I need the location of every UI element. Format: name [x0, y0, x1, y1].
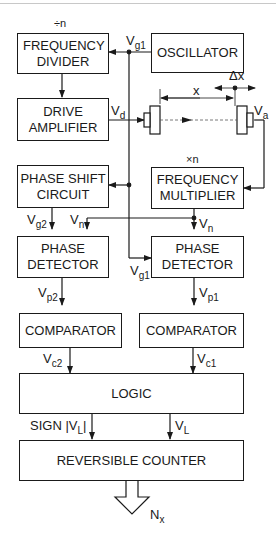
comparator-left-block: COMPARATOR [19, 313, 122, 348]
signal-nx: Nx [150, 508, 164, 522]
phase-detector-right-block: PHASE DETECTOR [151, 236, 244, 278]
phase-shift-circuit-block: PHASE SHIFT CIRCUIT [17, 165, 109, 208]
frequency-multiplier-block: FREQUENCY MULTIPLIER [151, 167, 244, 209]
signal-vn-left: Vn [70, 213, 84, 227]
signal-sign-vl: SIGN |VL| [30, 419, 86, 433]
phase-detector-left-block: PHASE DETECTOR [17, 236, 109, 278]
delta-x-label: Δx [229, 69, 244, 83]
signal-vc1: Vc1 [197, 352, 216, 366]
signal-vc2: Vc2 [43, 352, 62, 366]
oscillator-block: OSCILLATOR [151, 33, 244, 73]
signal-vn-right: Vn [199, 217, 213, 231]
comparator-right-block: COMPARATOR [139, 313, 244, 348]
signal-vl: VL [175, 419, 189, 433]
divide-by-n-label: ÷n [54, 16, 66, 30]
signal-vg1-top: Vg1 [126, 34, 146, 48]
x-distance-label: x [193, 84, 200, 98]
frequency-divider-block: FREQUENCY DIVIDER [17, 33, 109, 74]
reversible-counter-block: REVERSIBLE COUNTER [19, 440, 244, 481]
signal-vg1-bottom: Vg1 [130, 264, 150, 278]
multiply-by-n-label: ×n [186, 152, 199, 166]
logic-block: LOGIC [19, 373, 244, 414]
signal-vd: Vd [111, 104, 125, 118]
drive-amplifier-block: DRIVE AMPLIFIER [17, 98, 109, 141]
signal-vg2: Vg2 [27, 213, 47, 227]
signal-vp2: Vp2 [38, 286, 58, 300]
signal-vp1: Vp1 [199, 286, 219, 300]
signal-va: Va [254, 104, 268, 118]
